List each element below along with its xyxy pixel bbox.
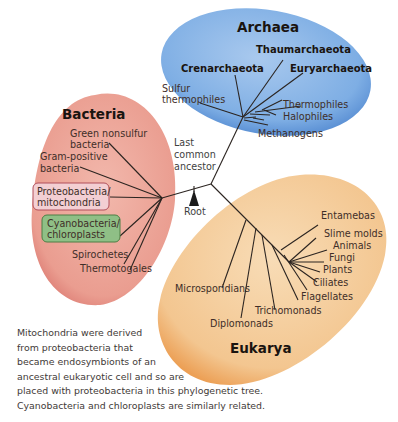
archaea-group-thaumarchaeota: Thaumarchaeota [256,44,351,55]
eukarya-label-ciliates: Ciliates [313,277,348,288]
archaea-title: Archaea [237,19,299,35]
eukarya-label-trichomonads: Trichomonads [254,305,322,316]
lca-label-line3: ancestor [174,161,216,172]
bacteria-label-spirochetes: Spirochetes [72,249,128,260]
bacteria-label-gram-positive-2: bacteria [40,163,79,174]
eukarya-label-microsporidians: Microsporidians [175,283,250,294]
caption-line: ancestral eukaryotic cell and so are [17,370,397,385]
bacteria-label-green-nonsulfur-2: bacteria [70,139,109,150]
chloroplasts-label: chloroplasts [47,229,105,240]
bacteria-label-green-nonsulfur: Green nonsulfur [70,128,147,139]
archaea-label-thermophiles: Thermophiles [282,99,348,110]
bacteria-label-gram-positive: Gram-positive [40,151,108,162]
archaea-label-thermophiles-sulfur: thermophiles [162,94,225,105]
proteobacteria-label: Proteobacteria/ [37,186,111,197]
eukarya-label-fungi: Fungi [329,252,355,263]
lca-label-line1: Last [174,137,194,148]
bacteria-label-thermotogales: Thermotogales [79,263,152,274]
root-marker [189,190,199,206]
mitochondria-label: mitochondria [37,197,101,208]
eukarya-label-plants: Plants [323,264,352,275]
caption-line: Mitochondria were derived [17,326,397,341]
eukarya-label-slime-molds: Slime molds [324,228,383,239]
archaea-label-methanogens: Methanogens [258,128,323,139]
caption-line: Cyanobacteria and chloroplasts are simil… [17,399,397,414]
archaea-label-sulfur: Sulfur [162,83,190,94]
lca-label-line2: common [174,149,216,160]
figure-caption: Mitochondria were derived from proteobac… [17,326,397,414]
caption-line: from proteobacteria that [17,341,397,356]
bacteria-title: Bacteria [62,106,125,122]
eukarya-label-animals: Animals [333,240,371,251]
caption-line: became endosymbionts of an [17,355,397,370]
eukarya-label-entamebas: Entamebas [321,210,375,221]
archaea-group-euryarchaeota: Euryarchaeota [290,63,372,74]
eukarya-label-flagellates: Flagellates [301,291,353,302]
caption-line: placed with proteobacteria in this phylo… [17,384,397,399]
root-label: Root [184,206,206,217]
archaea-group-crenarchaeota: Crenarchaeota [181,63,264,74]
cyanobacteria-label: Cyanobacteria/ [47,218,121,229]
archaea-label-halophiles: Halophiles [283,111,333,122]
